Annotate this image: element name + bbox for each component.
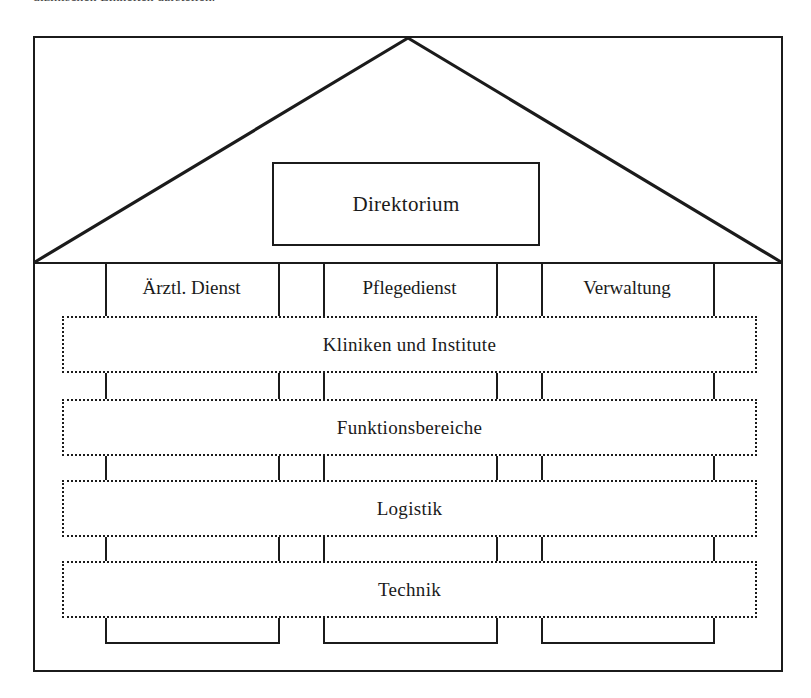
- connector-col5-seg2: [541, 370, 543, 402]
- connector-col6-seg2: [713, 370, 715, 402]
- connector-col1-seg4: [105, 534, 107, 563]
- band-funktionsbereiche: Funktionsbereiche: [62, 399, 757, 456]
- connector-col5-seg4: [541, 534, 543, 563]
- bottom-bracket-1: [105, 618, 280, 644]
- column-header-pflegedienst: Pflegedienst: [323, 264, 496, 312]
- band-label: Funktionsbereiche: [337, 417, 482, 439]
- connector-col4-seg3: [496, 453, 498, 483]
- column-header-label: Verwaltung: [583, 277, 671, 299]
- connector-col3-seg3: [323, 453, 325, 483]
- direktorium-label: Direktorium: [352, 192, 459, 217]
- connector-col6-seg3: [713, 453, 715, 483]
- diagram-canvas: dizinischen Einheiten darstellen. Direkt…: [0, 0, 811, 698]
- connector-col1-seg2: [105, 370, 107, 402]
- bottom-bracket-3: [541, 618, 715, 644]
- connector-col4-seg2: [496, 370, 498, 402]
- band-label: Technik: [378, 579, 441, 601]
- direktorium-box: Direktorium: [272, 162, 540, 246]
- column-header-label: Pflegedienst: [363, 277, 457, 299]
- column-header-row: Ärztl. Dienst Pflegedienst Verwaltung: [33, 264, 783, 312]
- band-label: Kliniken und Institute: [323, 334, 496, 356]
- connector-col2-seg3: [278, 453, 280, 483]
- connector-col5-seg3: [541, 453, 543, 483]
- connector-col6-seg4: [713, 534, 715, 563]
- band-logistik: Logistik: [62, 480, 757, 537]
- connector-col2-seg2: [278, 370, 280, 402]
- connector-col3-seg2: [323, 370, 325, 402]
- band-kliniken-und-institute: Kliniken und Institute: [62, 316, 757, 373]
- column-header-verwaltung: Verwaltung: [541, 264, 713, 312]
- bottom-bracket-2: [323, 618, 498, 644]
- connector-col1-seg3: [105, 453, 107, 483]
- column-header-label: Ärztl. Dienst: [142, 277, 240, 299]
- connector-col3-seg4: [323, 534, 325, 563]
- band-technik: Technik: [62, 561, 757, 618]
- page-caption-text: dizinischen Einheiten darstellen.: [33, 0, 533, 5]
- column-header-aerztl-dienst: Ärztl. Dienst: [105, 264, 278, 312]
- band-label: Logistik: [377, 498, 443, 520]
- connector-col4-seg4: [496, 534, 498, 563]
- connector-col2-seg4: [278, 534, 280, 563]
